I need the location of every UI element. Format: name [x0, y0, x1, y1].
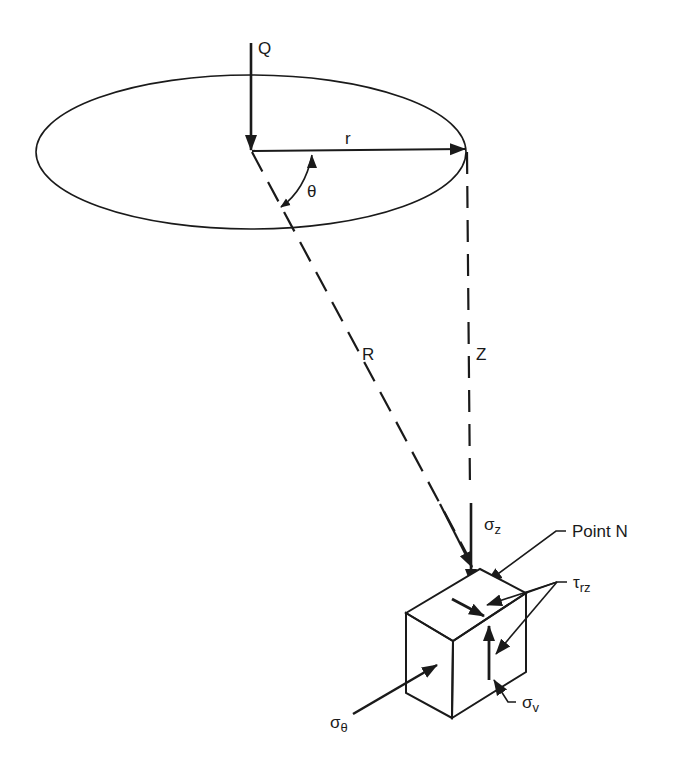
- tangential-stress-label: σθ: [330, 713, 348, 735]
- distance-label: R: [362, 345, 374, 364]
- vertical-stress-label: σz: [484, 515, 501, 537]
- tangential-stress-arrow: [353, 665, 437, 714]
- diagram-canvas: Q r θ R Z σz Point N τrz σv σθ: [0, 0, 676, 762]
- radius-label: r: [345, 129, 351, 148]
- depth-label: Z: [476, 345, 486, 364]
- point-leader: [487, 531, 566, 582]
- shear-stress-label: τrz: [573, 573, 591, 595]
- angle-arrowhead-icon: [307, 155, 317, 168]
- depth-line: [467, 152, 470, 490]
- radius-arrow: [252, 149, 465, 151]
- distance-line: [252, 152, 470, 560]
- angle-label: θ: [307, 182, 316, 201]
- point-label: Point N: [572, 522, 628, 541]
- stress-element-cube: [406, 569, 526, 718]
- distance-arrow: [440, 504, 472, 567]
- load-label: Q: [258, 39, 271, 58]
- radial-stress-label: σv: [522, 693, 540, 715]
